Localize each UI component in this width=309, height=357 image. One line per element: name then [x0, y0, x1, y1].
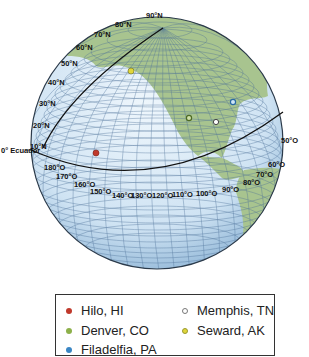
- legend-dot-yellow-icon: [182, 328, 188, 334]
- svg-text:80°N: 80°N: [115, 20, 132, 29]
- legend-item-denver: Denver, CO: [66, 323, 149, 338]
- svg-text:50°O: 50°O: [281, 136, 298, 145]
- svg-text:90°N: 90°N: [146, 11, 163, 20]
- svg-text:70°O: 70°O: [256, 170, 273, 179]
- legend-label: Memphis, TN: [197, 303, 274, 318]
- legend-label: Hilo, HI: [81, 303, 124, 318]
- legend-dot-blue-icon: [66, 347, 72, 353]
- svg-text:70°N: 70°N: [94, 30, 111, 39]
- legend-label: Denver, CO: [81, 323, 149, 338]
- legend-dot-white-icon: [182, 308, 188, 314]
- svg-text:120°O: 120°O: [152, 191, 174, 200]
- legend-item-filadelfia: Filadelfia, PA: [66, 342, 157, 357]
- globe-diagram: 0° Ecuador 10°N 20°N 30°N 40°N 50°N 60°N…: [0, 0, 309, 290]
- point-hilo: [93, 150, 99, 156]
- legend-item-memphis: Memphis, TN: [182, 303, 274, 318]
- svg-text:60°N: 60°N: [76, 43, 93, 52]
- svg-text:110°O: 110°O: [172, 190, 193, 199]
- point-memphis: [213, 119, 218, 124]
- legend-item-seward: Seward, AK: [182, 323, 265, 338]
- point-seward: [128, 68, 134, 74]
- svg-text:30°N: 30°N: [39, 99, 56, 108]
- svg-text:150°O: 150°O: [90, 187, 112, 196]
- legend-label: Seward, AK: [197, 323, 265, 338]
- svg-text:90°O: 90°O: [222, 185, 239, 194]
- legend: Hilo, HI Denver, CO Filadelfia, PA Memph…: [55, 294, 275, 356]
- svg-text:180°O: 180°O: [44, 163, 66, 172]
- point-filadelfia: [230, 99, 235, 104]
- svg-text:50°N: 50°N: [61, 59, 78, 68]
- svg-text:20°N: 20°N: [33, 121, 50, 130]
- svg-text:130°O: 130°O: [131, 191, 153, 200]
- svg-text:40°N: 40°N: [48, 78, 65, 87]
- svg-text:100°O: 100°O: [196, 189, 218, 198]
- svg-text:10°N: 10°N: [30, 142, 47, 151]
- legend-dot-red-icon: [66, 308, 72, 314]
- legend-item-hilo: Hilo, HI: [66, 303, 124, 318]
- svg-text:80°O: 80°O: [243, 178, 260, 187]
- legend-label: Filadelfia, PA: [81, 342, 157, 357]
- point-denver: [186, 115, 191, 120]
- legend-dot-green-icon: [66, 328, 72, 334]
- svg-text:60°O: 60°O: [268, 160, 285, 169]
